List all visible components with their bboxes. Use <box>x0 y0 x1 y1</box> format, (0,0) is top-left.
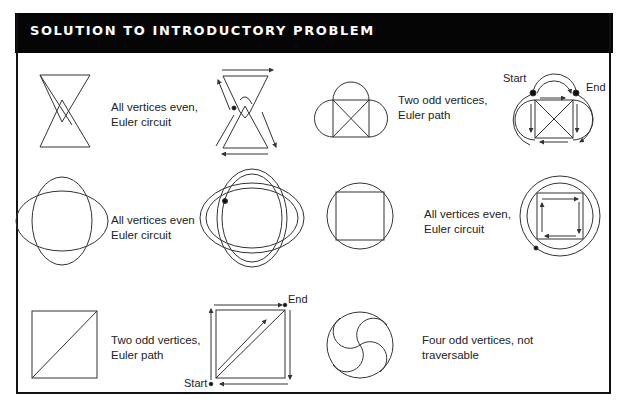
box-arcs-graph <box>315 82 388 137</box>
caption-ellipses: All vertices evenEuler circuit <box>111 213 195 243</box>
start-label: Start <box>503 72 526 84</box>
diagonal-square-euler-path <box>209 303 290 386</box>
ellipses-euler-circuit <box>200 169 304 267</box>
bowtie-graph <box>40 75 90 147</box>
bowtie-euler-circuit <box>216 70 276 154</box>
start-label-2: Start <box>184 377 207 389</box>
caption-diagonal-square: Two odd vertices,Euler path <box>111 333 200 363</box>
diagonal-square-graph <box>32 311 97 378</box>
caption-bowtie: All vertices even,Euler circuit <box>111 100 198 130</box>
caption-square-circle: All vertices even,Euler circuit <box>424 207 511 237</box>
ellipses-graph <box>16 177 108 265</box>
caption-box-arcs: Two odd vertices,Euler path <box>398 93 487 123</box>
square-circle-euler-circuit <box>520 176 600 256</box>
end-label-2: End <box>288 293 308 305</box>
diagram-graphics <box>0 0 630 410</box>
box-arcs-euler-path <box>513 74 593 145</box>
square-circle-graph <box>327 183 393 249</box>
caption-pinwheel: Four odd vertices, nottraversable <box>422 333 533 363</box>
end-label: End <box>586 81 606 93</box>
pinwheel-graph <box>327 312 393 378</box>
